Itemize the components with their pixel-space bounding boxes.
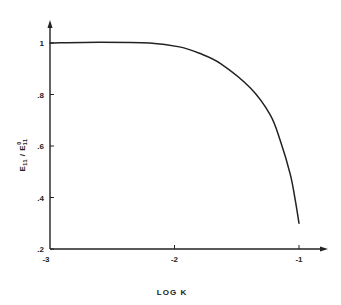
x-axis-arrow-icon: [320, 247, 328, 252]
x-tick-label: -1: [295, 255, 303, 264]
x-axis-title: LOG K: [157, 288, 187, 297]
y-tick-label: 1: [40, 39, 45, 48]
y-tick-label: .6: [37, 142, 44, 151]
y-tick-label: .4: [37, 194, 44, 203]
y-tick-label: .2: [37, 245, 44, 254]
y-ticks: .2.4.6.81: [37, 39, 54, 254]
y-axis-arrow-icon: [48, 20, 53, 28]
chart: .2.4.6.81 -3-2-1 LOG K E11 / E011: [0, 0, 341, 305]
svg-text:E11 / E011: E11 / E011: [16, 138, 28, 171]
y-axis: [48, 20, 53, 249]
x-ticks: -3-2-1: [42, 245, 303, 264]
y-axis-title: E11 / E011: [16, 138, 28, 171]
data-curve: [50, 42, 299, 223]
y-tick-label: .8: [37, 91, 44, 100]
x-axis: [50, 247, 328, 252]
x-tick-label: -3: [42, 255, 50, 264]
x-tick-label: -2: [171, 255, 179, 264]
